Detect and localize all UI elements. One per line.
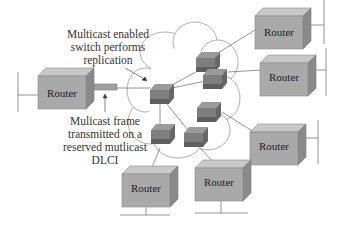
- switch-icon: [203, 69, 227, 89]
- switch-icon: [184, 127, 208, 147]
- router-right-upper-label: Router: [260, 71, 308, 83]
- switch-icon: [197, 102, 221, 122]
- router-top-right-label: Router: [255, 26, 303, 38]
- router-bottom-center-label: Router: [195, 176, 243, 188]
- switch-icon: [150, 84, 174, 104]
- multicast-frame-note: Mulicast frame transmitted on a reserved…: [55, 115, 155, 167]
- switch-replication-note: Multicast enabled switch performs replic…: [58, 28, 158, 67]
- router-right-lower-label: Router: [250, 140, 298, 152]
- multicast-frame: [91, 84, 117, 90]
- router-left-label: Router: [38, 87, 86, 99]
- router-bottom-left-label: Router: [122, 182, 170, 194]
